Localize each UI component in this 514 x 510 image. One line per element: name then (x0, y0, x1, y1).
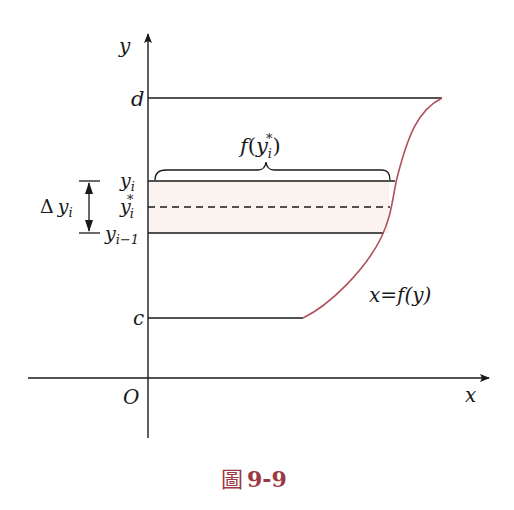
yi-label: yi (119, 169, 135, 194)
brace (155, 162, 390, 180)
yi-star-label: yi* (119, 192, 134, 221)
d-label: d (131, 87, 144, 111)
x-axis-label: x (465, 383, 476, 407)
diagram-canvas: y x O d c yi yi* yi−1 Δyi f(yi*) x=f(y) … (0, 0, 514, 510)
origin-label: O (123, 385, 139, 409)
figure-9-9: y x O d c yi yi* yi−1 Δyi f(yi*) x=f(y) … (0, 0, 514, 510)
curve-label: x=f(y) (369, 283, 431, 307)
c-label: c (133, 306, 144, 330)
y-axis-label: y (118, 34, 131, 58)
delta-arrow-up-icon (85, 182, 93, 194)
delta-yi-label: Δyi (40, 195, 73, 220)
delta-arrow-down-icon (85, 220, 93, 232)
yi-minus-1-label: yi−1 (104, 222, 139, 247)
figure-caption: 圖9-9 (221, 466, 287, 492)
brace-label-f-yi-star: f(yi*) (238, 131, 281, 161)
